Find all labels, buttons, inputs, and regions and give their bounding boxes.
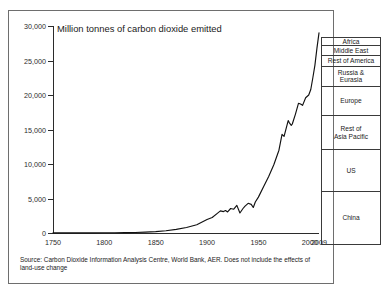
y-tick-label: 20,000 (24, 92, 46, 99)
region-breakdown-legend: AfricaMiddle EastRest of AmericaRussia &… (321, 37, 381, 245)
figure-frame: Million tonnes of carbon dioxide emitted… (8, 10, 334, 284)
y-tick-label: 0 (42, 230, 46, 237)
legend-segment-us[interactable]: US (322, 150, 380, 191)
legend-segment-rest-of-asia-pacific[interactable]: Rest of Asia Pacific (322, 116, 380, 150)
y-tick-label: 25,000 (24, 57, 46, 64)
y-tick-label: 15,000 (24, 126, 46, 133)
legend-segment-rest-of-america[interactable]: Rest of America (322, 56, 380, 67)
emissions-line-path (53, 33, 319, 233)
legend-segment-label: Rest of America (327, 57, 376, 64)
y-tick-label: 5,000 (28, 195, 46, 202)
legend-segment-middle-east[interactable]: Middle East (322, 46, 380, 56)
legend-segment-label: Russia & Eurasia (337, 69, 365, 84)
legend-segment-africa[interactable]: Africa (322, 38, 380, 46)
legend-segment-label: China (341, 214, 360, 221)
y-tick-label: 10,000 (24, 161, 46, 168)
legend-segment-label: Europe (339, 97, 362, 104)
legend-segment-label: Middle East (333, 47, 369, 54)
y-tick-label: 30,000 (24, 23, 46, 30)
legend-segment-russia-eurasia[interactable]: Russia & Eurasia (322, 67, 380, 87)
plot-area: Million tonnes of carbon dioxide emitted… (53, 26, 321, 248)
legend-segment-label: US (345, 167, 356, 174)
emissions-line-series (53, 26, 321, 248)
legend-segment-label: Rest of Asia Pacific (333, 125, 369, 140)
legend-segment-europe[interactable]: Europe (322, 87, 380, 116)
source-footnote: Source: Carbon Dioxide Information Analy… (20, 256, 320, 273)
legend-segment-label: Africa (342, 38, 361, 45)
legend-segment-china[interactable]: China (322, 192, 380, 245)
